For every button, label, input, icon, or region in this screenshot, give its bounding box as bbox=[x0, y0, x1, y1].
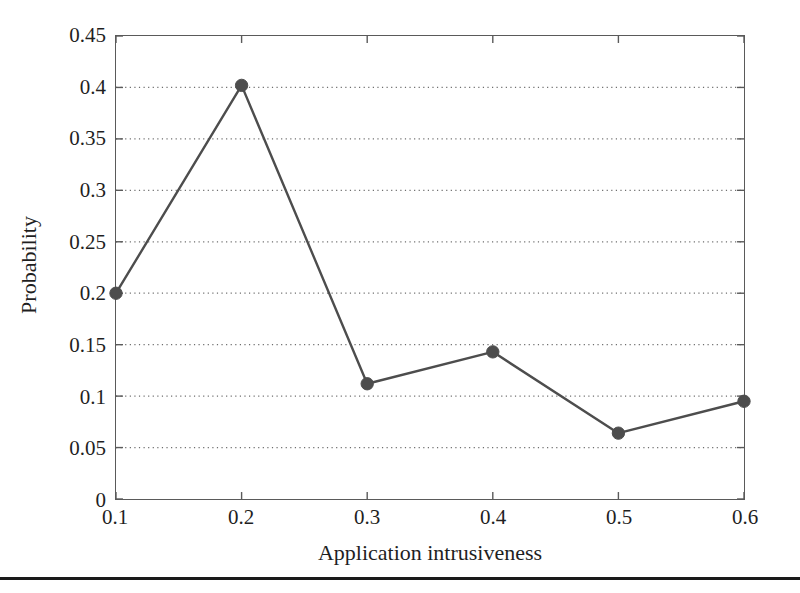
chart-figure: 00.050.10.150.20.250.30.350.40.45 0.10.2… bbox=[0, 0, 800, 593]
y-tick-label: 0.4 bbox=[80, 76, 106, 97]
y-tick-label: 0.45 bbox=[69, 25, 106, 46]
x-tick-label: 0.5 bbox=[606, 507, 632, 528]
data-point-marker bbox=[361, 378, 373, 390]
y-tick-label: 0.25 bbox=[69, 231, 106, 252]
x-tick-label: 0.2 bbox=[228, 507, 254, 528]
y-tick-label: 0.15 bbox=[69, 335, 106, 356]
y-tick-label: 0.1 bbox=[80, 386, 106, 407]
y-tick-label: 0.35 bbox=[69, 128, 106, 149]
y-axis-title: Probability bbox=[16, 175, 42, 355]
x-tick-label: 0.4 bbox=[480, 507, 506, 528]
x-tick-label: 0.1 bbox=[102, 507, 128, 528]
data-point-marker bbox=[612, 427, 624, 439]
data-point-marker bbox=[487, 346, 499, 358]
y-tick-label: 0.3 bbox=[80, 180, 106, 201]
x-axis-tick-labels: 0.10.20.30.40.50.6 bbox=[115, 507, 745, 537]
data-series-line bbox=[116, 36, 744, 499]
y-tick-label: 0.2 bbox=[80, 283, 106, 304]
footer-rule bbox=[0, 577, 800, 580]
x-tick-label: 0.6 bbox=[732, 507, 758, 528]
data-point-marker bbox=[738, 395, 750, 407]
data-point-marker bbox=[110, 287, 122, 299]
x-tick-label: 0.3 bbox=[354, 507, 380, 528]
y-tick-label: 0.05 bbox=[69, 438, 106, 459]
data-point-marker bbox=[235, 79, 247, 91]
plot-area bbox=[115, 35, 745, 500]
x-axis-title: Application intrusiveness bbox=[115, 540, 745, 566]
